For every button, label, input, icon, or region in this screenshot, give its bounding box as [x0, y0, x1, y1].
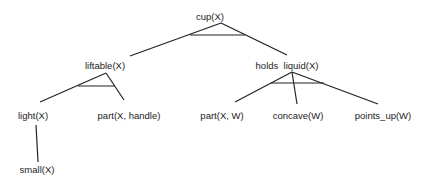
edge-cup-to-holds_liquid — [221, 23, 287, 55]
edge-holds_liquid-to-part_w — [235, 72, 292, 102]
node-points-up: points_up(W) — [355, 111, 412, 121]
edge-holds_liquid-to-points_up — [292, 72, 378, 104]
edge-liftable-to-light — [40, 73, 106, 102]
edge-cup-to-liftable — [130, 23, 221, 56]
node-part-w: part(X, W) — [200, 111, 243, 121]
node-small: small(X) — [20, 165, 55, 175]
node-concave: concave(W) — [273, 111, 324, 121]
tree-edges — [0, 0, 429, 191]
node-cup: cup(X) — [196, 12, 224, 22]
and-tree-diagram: cup(X)liftable(X)holds liquid(X)light(X)… — [0, 0, 429, 191]
node-liftable: liftable(X) — [85, 61, 125, 71]
edge-holds_liquid-to-concave — [292, 72, 297, 104]
node-light: light(X) — [18, 111, 48, 121]
edge-light-to-small — [36, 125, 38, 162]
node-holds-liquid: holds liquid(X) — [256, 61, 319, 71]
node-part-handle: part(X, handle) — [98, 111, 161, 121]
